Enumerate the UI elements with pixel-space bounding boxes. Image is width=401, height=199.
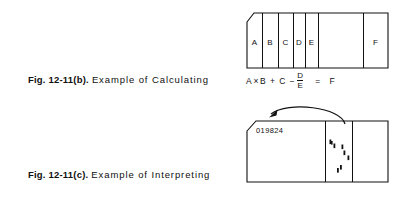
equation-fraction-numerator: D <box>297 72 303 81</box>
punch-mark <box>342 145 344 150</box>
punch-mark <box>337 168 339 173</box>
punched-card-artwork: A B C D E F 019824 <box>0 0 401 199</box>
interpreted-number: 019824 <box>256 126 283 135</box>
punch-mark <box>331 141 333 145</box>
equation-operator-plus: + <box>268 76 276 86</box>
punch-mark <box>340 165 342 170</box>
equation-fraction-denominator: E <box>297 81 303 90</box>
interpret-arrow-head <box>269 110 278 118</box>
calculating-equation: A×B + C −DE=F <box>246 72 335 90</box>
equation-equals-sign: = <box>304 76 329 86</box>
card-column-letter-c: C <box>283 38 289 47</box>
equation-result: F <box>329 76 334 86</box>
punch-mark <box>344 151 346 156</box>
calculating-card: A B C D E F <box>247 13 388 68</box>
punch-mark <box>334 144 336 149</box>
equation-operand-2: B <box>260 76 266 86</box>
card-column-letter-d: D <box>296 38 302 47</box>
card-column-letter-a: A <box>252 38 258 47</box>
card-column-letter-b: B <box>267 38 272 47</box>
card-column-letter-f: F <box>373 38 378 47</box>
equation-operator-multiply: × <box>252 76 260 86</box>
figure-12-11-panel: Fig. 12-11(b). Example of Calculating Fi… <box>0 0 401 199</box>
equation-operand-3: C <box>279 76 285 86</box>
interpreting-card: 019824 <box>247 107 388 182</box>
equation-fraction: DE <box>297 72 303 90</box>
punch-mark <box>348 156 350 161</box>
equation-operator-minus: − <box>288 76 296 86</box>
card-column-letter-e: E <box>309 38 314 47</box>
